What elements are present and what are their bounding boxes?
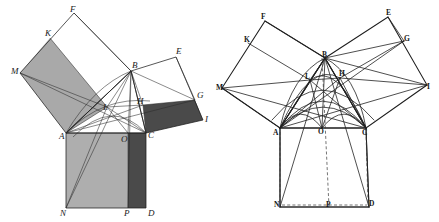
label-D-left: D — [147, 208, 155, 218]
label-N-right: N — [274, 200, 280, 209]
label-D-right: D — [369, 199, 375, 208]
euclid-i47-figure: A B C D E F G H I K L M N O P — [0, 0, 439, 222]
label-I-left: I — [204, 114, 209, 124]
label-P-right: P — [326, 200, 331, 209]
label-H-left: H — [136, 96, 144, 106]
label-B-right: B — [322, 50, 327, 59]
label-O-right: O — [318, 127, 324, 136]
label-A-left: A — [58, 131, 65, 141]
region-hypotenuse-square-right-part — [128, 133, 146, 208]
label-L-left: L — [102, 102, 108, 112]
label-K-right: K — [244, 35, 250, 44]
label-A-right: A — [273, 128, 279, 137]
region-hypotenuse-square-left-part — [66, 133, 128, 208]
label-N-left: N — [59, 208, 67, 218]
region-leg-square-ab-shaded — [20, 38, 107, 133]
label-G-right: G — [404, 34, 410, 43]
panel-left-modern-redraw: A B C D E F G H I K L M N O P — [10, 4, 209, 218]
label-E-right: E — [386, 8, 391, 17]
label-O-left: O — [121, 134, 128, 144]
diagram-canvas: A B C D E F G H I K L M N O P — [0, 0, 439, 222]
label-H-right: H — [339, 69, 345, 78]
label-F-left: F — [69, 4, 76, 14]
label-M-left: M — [10, 66, 19, 76]
label-K-left: K — [44, 28, 52, 38]
label-B-left: B — [132, 60, 138, 70]
region-leg-square-bc-shaded — [143, 100, 203, 133]
label-E-left: E — [175, 46, 182, 56]
label-I-right: I — [427, 82, 430, 91]
square-on-ac-right — [280, 128, 369, 207]
label-G-left: G — [197, 90, 204, 100]
label-C-right: C — [362, 128, 367, 137]
label-F-right: F — [261, 12, 266, 21]
label-M-right: M — [216, 83, 223, 92]
label-P-left: P — [123, 208, 130, 218]
panel-right-facsimile: A B C D E F G H I K L M N O P — [216, 8, 430, 209]
lower-fan-lines-right — [280, 58, 369, 207]
label-C-left: C — [148, 130, 155, 140]
label-L-right: L — [305, 72, 310, 81]
